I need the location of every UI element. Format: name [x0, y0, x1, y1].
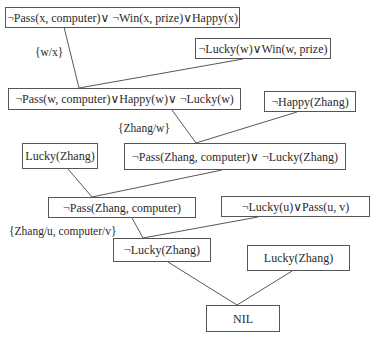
edge-c5-c7 [68, 169, 92, 197]
edge-c1-c3 [64, 27, 79, 88]
edge-c2-c3 [79, 59, 243, 88]
substitution-label-s2: {Zhang/w} [118, 122, 170, 134]
clause-node-c2: ¬Lucky(w)∨Win(w, prize) [195, 38, 331, 59]
edge-c7-c9 [132, 218, 143, 238]
clause-node-c7: ¬Pass(Zhang, computer) [48, 197, 196, 218]
edge-c4-c6 [196, 112, 297, 143]
edge-c3-c6 [172, 110, 196, 143]
edge-c6-c7 [92, 170, 222, 197]
edge-c10-c11 [237, 271, 292, 305]
clause-node-c5: Lucky(Zhang) [22, 143, 98, 169]
clause-node-c8: ¬Lucky(u)∨Pass(u, v) [221, 196, 370, 217]
edge-c9-c11 [168, 262, 237, 305]
clause-node-c9: ¬Lucky(Zhang) [113, 238, 211, 262]
clause-node-c4: ¬Happy(Zhang) [264, 91, 356, 112]
substitution-label-s3: {Zhang/u, computer/v} [9, 225, 117, 237]
clause-node-nil: NIL [206, 305, 280, 332]
clause-node-c6: ¬Pass(Zhang, computer)∨ ¬Lucky(Zhang) [124, 143, 346, 170]
clause-node-c10: Lucky(Zhang) [247, 245, 350, 271]
edge-c8-c9 [143, 217, 258, 238]
clause-node-c1: ¬Pass(x, computer)∨ ¬Win(x, prize)∨Happy… [5, 7, 240, 28]
substitution-label-s1: {w/x} [35, 46, 63, 58]
clause-node-c3: ¬Pass(w, computer)∨Happy(w)∨ ¬Lucky(w) [8, 88, 241, 110]
